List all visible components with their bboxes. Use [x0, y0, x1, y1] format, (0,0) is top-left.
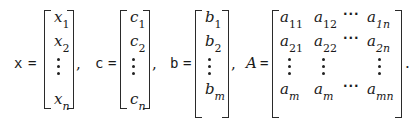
a-hdots-row-1: ··· — [343, 7, 360, 21]
c-separator: , — [152, 55, 157, 73]
b-right-bracket — [222, 10, 229, 118]
a-cell-m-n-base: a — [367, 80, 376, 98]
a-cell-1-2-sub: 12 — [323, 18, 337, 31]
x-right-bracket — [67, 10, 74, 109]
a-cell-1-1-base: a — [280, 8, 289, 26]
a-cell-m-n-sub: mn — [376, 90, 394, 103]
x-equals: = — [28, 55, 36, 71]
b-entry-2-base: b — [205, 32, 215, 50]
x-label: x — [14, 55, 22, 71]
a-cell-2-2: a22 — [314, 32, 337, 50]
c-label: c — [95, 55, 103, 71]
a-equals: = — [260, 55, 268, 71]
a-label: A — [246, 54, 257, 72]
a-cell-2-1: a21 — [280, 32, 303, 50]
a-cell-2-1-sub: 21 — [289, 42, 303, 55]
a-cell-2-n-base: a — [367, 32, 376, 50]
a-cell-2-1-base: a — [280, 32, 289, 50]
a-cell-2-2-base: a — [314, 32, 323, 50]
a-hdots-row-2: ··· — [343, 31, 360, 45]
a-cell-1-n: a1n — [367, 8, 390, 26]
c-equals: = — [108, 55, 116, 71]
a-cell-1-n-sub: 1n — [376, 18, 390, 31]
a-cell-1-n-base: a — [367, 8, 376, 26]
a-vdots-col-1 — [288, 58, 292, 79]
a-hdots-row-m: ··· — [343, 79, 360, 93]
a-vdots-col-n — [378, 58, 382, 79]
b-equals: = — [183, 55, 191, 71]
a-cell-1-1-sub: 11 — [289, 18, 303, 31]
a-cell-m-n: amn — [367, 80, 393, 98]
b-entry-2-sub: 2 — [215, 42, 222, 55]
a-cell-m-2-sub: m — [323, 90, 333, 103]
b-entry-1: b1 — [205, 8, 222, 26]
b-label: b — [170, 55, 178, 71]
a-cell-2-n-sub: 2n — [376, 42, 390, 55]
x-vdots — [57, 58, 61, 79]
b-entry-1-sub: 1 — [215, 18, 222, 31]
a-right-bracket — [395, 10, 402, 118]
b-left-bracket — [195, 10, 202, 118]
a-cell-m-2: am — [314, 80, 333, 98]
c-vdots — [132, 58, 136, 79]
a-cell-1-2-base: a — [314, 8, 323, 26]
a-cell-1-2: a12 — [314, 8, 337, 26]
a-cell-m-2-base: a — [314, 80, 323, 98]
a-cell-1-1: a11 — [280, 8, 303, 26]
b-entry-1-base: b — [205, 8, 215, 26]
a-cell-m-1: am — [280, 80, 299, 98]
b-entry-m-base: b — [205, 80, 215, 98]
a-cell-m-1-base: a — [280, 80, 289, 98]
c-left-bracket — [120, 10, 127, 109]
b-separator: , — [231, 55, 236, 73]
x-left-bracket — [44, 10, 51, 109]
a-left-bracket — [272, 10, 279, 118]
a-cell-m-1-sub: m — [289, 90, 299, 103]
a-vdots-col-2 — [322, 58, 326, 79]
c-right-bracket — [143, 10, 150, 109]
x-separator: , — [76, 55, 81, 73]
b-entry-2: b2 — [205, 32, 222, 50]
a-cell-2-2-sub: 22 — [323, 42, 337, 55]
b-vdots — [208, 58, 212, 79]
a-cell-2-n: a2n — [367, 32, 390, 50]
a-terminator: . — [405, 54, 410, 72]
